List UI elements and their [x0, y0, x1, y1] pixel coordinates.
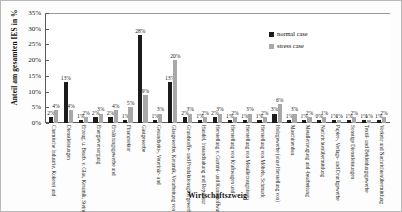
- bar-stress: 5%: [128, 107, 132, 123]
- x-axis-category: Nachrichtenübermittlung: [314, 125, 329, 189]
- x-axis-category: Papier-, Verlags- und Druckgewerbe: [329, 125, 344, 189]
- bar-stress: 1%: [322, 117, 326, 123]
- bar-group: 2%3%: [91, 13, 106, 123]
- bar-stress: 6%: [278, 104, 282, 123]
- x-axis-category: Maschinenbau: [285, 125, 300, 189]
- bar-stress: 2%: [352, 117, 356, 123]
- y-axis-title: Anteil am gesamten IES in %: [10, 0, 19, 118]
- x-axis-category-text: Energieversorgung: [95, 125, 101, 164]
- bar-normal: 1%: [243, 120, 247, 123]
- x-axis-category-text: Papier-, Verlags- und Druckgewerbe: [334, 125, 340, 201]
- bar-normal: 3%: [272, 114, 276, 123]
- y-axis-tick: 5%: [32, 103, 45, 111]
- bar-normal: 1%: [123, 120, 127, 123]
- bar-normal: 2%: [93, 117, 97, 123]
- legend-swatch-stress: [269, 44, 274, 49]
- bar-normal: 1%: [257, 120, 261, 123]
- bar-group: 2%4%: [46, 13, 61, 123]
- bar-value-label: 4%: [52, 104, 59, 110]
- bar-stress: 3%: [218, 114, 222, 123]
- x-axis-category: Erzeug. u. Bearb. v. Glas, Keramik, Stei…: [76, 125, 91, 189]
- bar-stress: 2%: [263, 117, 267, 123]
- x-axis-category: Dienstleistungen: [61, 125, 76, 189]
- x-axis-category: Grundstoffe- und Produktionsgütergewerbe: [180, 125, 195, 189]
- bar-group: 13%4%: [61, 13, 76, 123]
- x-axis-category: Herstellung von Metallerzeugnissen: [240, 125, 255, 189]
- x-axis-category-text: Ernährungsgewerbe und: [110, 125, 116, 176]
- bar-normal: 1%: [347, 120, 351, 123]
- bar-group: 1%3%: [150, 13, 165, 123]
- chart-legend: normal casestress case: [269, 28, 308, 52]
- x-axis-category-text: Maschinenbau: [289, 125, 295, 155]
- legend-item: normal case: [269, 28, 308, 40]
- bar-value-label: 6%: [276, 98, 283, 104]
- bar-normal: 1%: [198, 120, 202, 123]
- bar-stress: 4%: [114, 110, 118, 123]
- bar-normal: 2%: [49, 117, 53, 123]
- x-axis-category: Gesundheits-, Veterinär- und: [150, 125, 165, 189]
- plot-area: 0%5%10%15%20%25%30%35% 2%4%13%4%1%2%2%3%…: [45, 13, 390, 123]
- bar-value-label: 2%: [306, 111, 313, 117]
- bar-value-label: 4%: [112, 104, 119, 110]
- bar-normal: 1%: [153, 120, 157, 123]
- bar-value-label: 3%: [246, 107, 253, 113]
- y-axis-tick: 10%: [28, 88, 45, 96]
- bar-normal: 1%: [362, 120, 366, 123]
- y-axis-tick: 35%: [28, 9, 45, 17]
- x-axis-category: Gastgewerbe: [135, 125, 150, 189]
- x-axis-category: Sonstige Dienstleistungen: [344, 125, 359, 189]
- bar-stress: 3%: [188, 114, 192, 123]
- bar-normal: 1%: [287, 120, 291, 123]
- bar-value-label: 2%: [350, 111, 357, 117]
- x-axis-category-text: Metallerzeugung und -bearbeitung: [304, 125, 310, 197]
- bar-group: 1%2%: [255, 13, 270, 123]
- bar-normal: 2%: [108, 117, 112, 123]
- bar-group: 1%2%: [374, 13, 389, 123]
- bar-value-label: 3%: [97, 107, 104, 113]
- bar-value-label: 1%: [321, 111, 328, 117]
- legend-item: stress case: [269, 40, 308, 52]
- bar-group: 1%5%: [121, 13, 136, 123]
- chart-frame: Anteil am gesamten IES in % 0%5%10%15%20…: [0, 0, 402, 212]
- x-axis-category: Metallerzeugung und -bearbeitung: [299, 125, 314, 189]
- bar-value-label: 2%: [201, 111, 208, 117]
- y-axis-tick: 15%: [28, 72, 45, 80]
- bar-stress: 1%: [367, 120, 371, 123]
- bar-stress: 1%: [337, 120, 341, 123]
- x-axis-category-labels: Chemische Industrie, Kokerei undDienstle…: [45, 125, 390, 189]
- bar-value-label: 3%: [186, 107, 193, 113]
- x-axis-category: Chemische Industrie, Kokerei und: [46, 125, 61, 189]
- bar-value-label: 28%: [135, 29, 145, 35]
- x-axis-category: Textil- und Bekleidungsgewerbe: [359, 125, 374, 189]
- bar-value-label: 4%: [67, 104, 74, 110]
- y-axis-tick: 0%: [32, 119, 45, 127]
- y-axis-tick: 20%: [28, 56, 45, 64]
- bar-value-label: 3%: [291, 107, 298, 113]
- bar-value-label: 2%: [231, 111, 238, 117]
- legend-label: normal case: [277, 28, 308, 40]
- bar-group: 1%2%: [195, 13, 210, 123]
- x-axis-category: Finanzsektor: [121, 125, 136, 189]
- bar-value-label: 2%: [82, 111, 89, 117]
- x-axis-category-text: Nachrichtenübermittlung: [319, 125, 325, 177]
- bar-value-label: 2%: [380, 111, 387, 117]
- bar-stress: 20%: [173, 60, 177, 123]
- y-axis-tick-mark: [46, 123, 49, 124]
- bar-group: 2%3%: [210, 13, 225, 123]
- bar-normal: 28%: [138, 35, 142, 123]
- bar-stress: 3%: [248, 114, 252, 123]
- bar-normal: 1%: [377, 120, 381, 123]
- x-axis-category-text: Herstellung von Kraftwagen und: [229, 125, 235, 193]
- bar-value-label: 1%: [336, 114, 343, 120]
- bar-value-label: 1%: [365, 114, 372, 120]
- bar-stress: 9%: [143, 95, 147, 123]
- x-axis-category: Herstellung von Möbeln, Schmuck: [255, 125, 270, 189]
- x-axis-category-text: Gastgewerbe: [140, 125, 146, 152]
- x-axis-category: Handel, Instandhaltung und Reparatur: [195, 125, 210, 189]
- bar-group: 1%3%: [240, 13, 255, 123]
- bar-value-label: 3%: [216, 107, 223, 113]
- legend-label: stress case: [277, 40, 304, 52]
- bar-normal: 13%: [168, 82, 172, 123]
- bar-normal: 2%: [213, 117, 217, 123]
- bar-group: 2%4%: [106, 13, 121, 123]
